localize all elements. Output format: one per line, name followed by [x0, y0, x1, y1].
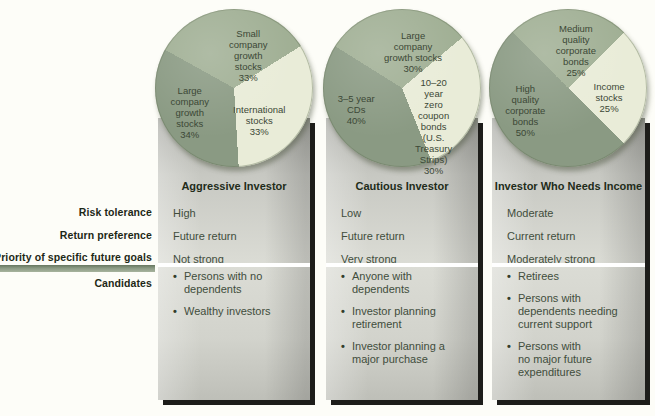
pie-slice-label: Large company growth stocks 34%: [170, 84, 209, 139]
risk-tolerance-value: Low: [341, 207, 472, 219]
candidates-list: Anyone with dependentsInvestor planning …: [341, 270, 474, 375]
row-label-priority: Priority of specific future goals: [0, 251, 152, 263]
figure-investor-profiles: Risk tolerance Return preference Priorit…: [0, 0, 655, 416]
candidate-item: Investor planning a major purchase: [341, 340, 474, 366]
candidate-item: Persons with dependents needing current …: [507, 292, 641, 331]
panel-divider-rule: [158, 263, 310, 267]
panel-divider-rule: [326, 263, 478, 267]
panel-title: Aggressive Investor: [158, 180, 310, 192]
panel-divider-rule: [492, 263, 645, 267]
candidate-item: Persons with no dependents: [173, 270, 306, 296]
risk-tolerance-value: Moderate: [507, 207, 639, 219]
candidate-item: Wealthy investors: [173, 305, 306, 318]
candidates-list: RetireesPersons with dependents needing …: [507, 270, 641, 388]
candidate-item: Retirees: [507, 270, 641, 283]
pie-slice-label: Medium quality corporate bonds 25%: [556, 23, 596, 78]
candidate-item: Investor planning retirement: [341, 305, 474, 331]
row-label-return-preference: Return preference: [60, 229, 152, 241]
pie-slice-label: 10–20 year zero coupon bonds (U.S. Treas…: [410, 76, 457, 175]
panel-title: Investor Who Needs Income: [492, 180, 645, 192]
pie-chart-cautious-allocation: Large company growth stocks 30%10–20 yea…: [323, 9, 481, 167]
pie-chart-aggressive-allocation: Small company growth stocks 33%Internati…: [155, 9, 313, 167]
candidates-list: Persons with no dependentsWealthy invest…: [173, 270, 306, 327]
pie-slice-label: Income stocks 25%: [594, 81, 625, 114]
panel-title: Cautious Investor: [326, 180, 478, 192]
return-preference-value: Future return: [341, 230, 472, 242]
pie-slice-label: International stocks 33%: [233, 103, 285, 136]
candidate-item: Anyone with dependents: [341, 270, 474, 296]
row-label-risk-tolerance: Risk tolerance: [79, 206, 152, 218]
return-preference-value: Future return: [173, 230, 304, 242]
pie-slice-label: Small company growth stocks 33%: [229, 27, 268, 82]
pie-chart-income-allocation: Medium quality corporate bonds 25%Income…: [489, 9, 647, 167]
candidate-item: Persons with no major future expenditure…: [507, 340, 641, 379]
row-label-candidates: Candidates: [94, 277, 152, 289]
row-label-column: Risk tolerance Return preference Priorit…: [0, 0, 155, 416]
pie-slice-label: High quality corporate bonds 50%: [505, 83, 545, 138]
pie-slice-label: Large company growth stocks 30%: [384, 30, 442, 74]
risk-tolerance-value: High: [173, 207, 304, 219]
row-label-divider-rule: [0, 265, 155, 272]
pie-slice-label: 3–5 year CDs 40%: [338, 92, 375, 125]
return-preference-value: Current return: [507, 230, 639, 242]
